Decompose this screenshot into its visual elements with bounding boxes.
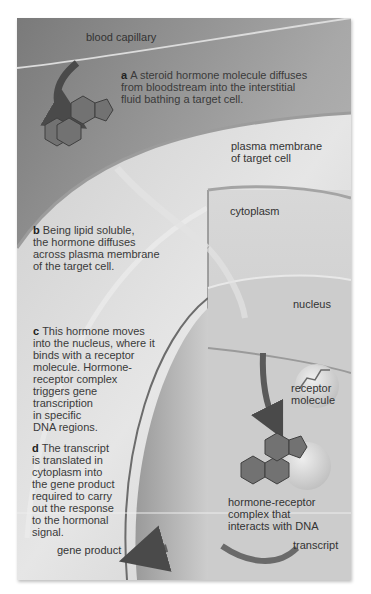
step-line: The transcript [42, 442, 109, 454]
label-nucleus: nucleus [293, 298, 331, 310]
step-b: bBeing lipid soluble, the hormone diffus… [33, 224, 160, 272]
step-line: across plasma membrane [33, 248, 160, 260]
label-line: molecule [291, 394, 335, 406]
label-hormone-receptor-complex: hormone-receptor complex that interacts … [228, 496, 318, 532]
step-line: Being lipid soluble, [43, 224, 135, 236]
label-cytoplasm: cytoplasm [230, 205, 280, 217]
step-line: of the target cell. [33, 260, 160, 272]
step-line: fluid bathing a target cell. [121, 93, 307, 105]
label-receptor-molecule: receptor molecule [291, 382, 335, 406]
step-c: cThis hormone moves into the nucleus, wh… [33, 325, 155, 433]
step-line: This hormone moves [42, 325, 145, 337]
step-line: the hormone diffuses [33, 236, 160, 248]
label-line: of target cell [231, 152, 322, 164]
step-d: dThe transcript is translated in cytopla… [32, 442, 115, 538]
step-line: required to carry [32, 490, 115, 502]
step-letter: b [33, 224, 40, 236]
label-line: receptor [291, 382, 335, 394]
label-transcript: transcript [293, 539, 338, 551]
step-line: signal. [32, 526, 115, 538]
step-line: binds with a receptor [33, 349, 155, 361]
step-line: to the hormonal [32, 514, 115, 526]
step-line: triggers gene [33, 385, 155, 397]
label-line: plasma membrane [231, 140, 322, 152]
label-line: complex that [228, 508, 318, 520]
label-line: hormone-receptor [228, 496, 318, 508]
step-line: out the response [32, 502, 115, 514]
label-blood-capillary: blood capillary [86, 31, 156, 43]
step-line: A steroid hormone molecule diffuses [130, 69, 307, 81]
label-gene-product: gene product [57, 544, 121, 556]
step-line: transcription [33, 397, 155, 409]
step-line: molecule. Hormone- [33, 361, 155, 373]
step-line: from bloodstream into the interstitial [121, 81, 307, 93]
diagram-panel: blood capillary aA steroid hormone molec… [17, 18, 351, 580]
step-line: cytoplasm into [32, 466, 115, 478]
step-letter: a [121, 69, 127, 81]
step-a: aA steroid hormone molecule diffuses fro… [121, 69, 307, 105]
step-line: into the nucleus, where it [33, 337, 155, 349]
step-line: the gene product [32, 478, 115, 490]
label-plasma-membrane: plasma membrane of target cell [231, 140, 322, 164]
label-line: interacts with DNA [228, 520, 318, 532]
step-line: DNA regions. [33, 421, 155, 433]
step-line: in specific [33, 409, 155, 421]
step-letter: c [33, 325, 39, 337]
step-letter: d [32, 442, 39, 454]
step-line: receptor complex [33, 373, 155, 385]
step-line: is translated in [32, 454, 115, 466]
